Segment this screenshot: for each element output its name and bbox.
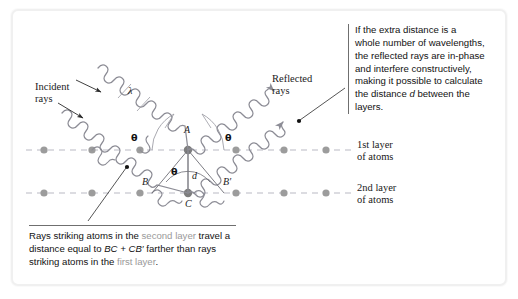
wavelength-label: λ — [128, 85, 132, 96]
callout-text: If the extra distance is awhole number o… — [355, 24, 485, 112]
distance-d-label: d — [192, 170, 197, 181]
point-a-label: A — [184, 124, 190, 135]
layer2-label: 2nd layer of atoms — [357, 182, 396, 206]
layer1-label: 1st layer of atoms — [357, 139, 393, 163]
theta-label-left: θ — [131, 133, 138, 144]
point-b-label: B — [142, 176, 148, 187]
caption-box: Rays striking atoms in the second layer … — [29, 225, 236, 269]
point-c-label: C — [185, 198, 192, 209]
figure-root: Incident rays Reflected rays 1st layer o… — [0, 0, 518, 299]
theta-label-bragg: θ — [171, 167, 178, 178]
point-b-prime-label: B′ — [223, 176, 231, 187]
caption-text: Rays striking atoms in the second layer … — [29, 230, 230, 267]
reflected-rays-label: Reflected rays — [272, 73, 312, 97]
callout-box: If the extra distance is awhole number o… — [348, 24, 507, 114]
theta-label-right: θ — [225, 133, 232, 144]
incident-rays-label: Incident rays — [35, 81, 69, 105]
